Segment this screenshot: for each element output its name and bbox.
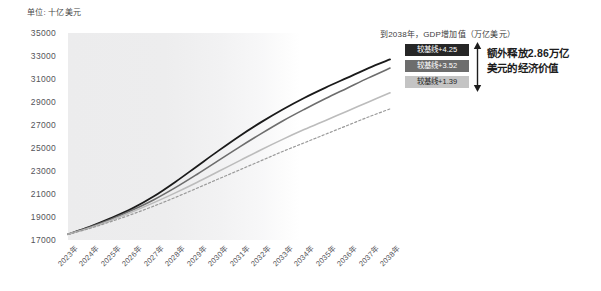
- delta-badge-3: 较基线+1.39: [405, 76, 469, 88]
- callout-line-1: 额外释放2.86万亿: [487, 46, 599, 61]
- y-axis-tick: 33000: [31, 51, 56, 61]
- x-axis-tick: 2027年: [140, 243, 165, 268]
- y-axis-tick: 27000: [31, 120, 56, 130]
- x-axis-tick: 2036年: [334, 243, 359, 268]
- x-axis-tick: 2037年: [355, 243, 380, 268]
- y-axis-tick: 19000: [31, 212, 56, 222]
- y-axis-tick: 29000: [31, 97, 56, 107]
- double-headed-vertical-arrow-icon: [473, 42, 482, 92]
- x-axis-tick: 2029年: [183, 243, 208, 268]
- chart-plot-area: [68, 33, 390, 240]
- annotation-title: 到2038年，GDP增加值（万亿美元）: [380, 28, 515, 39]
- delta-badge-2: 较基线+3.52: [405, 60, 469, 72]
- x-axis-tick: 2033年: [269, 243, 294, 268]
- x-axis-tick: 2031年: [226, 243, 251, 268]
- chart-lines: [68, 33, 390, 240]
- x-axis: 2023年2024年2025年2026年2027年2028年2029年2030年…: [68, 243, 398, 285]
- callout-line-2: 美元的经济价值: [487, 61, 599, 76]
- annotation-block: 到2038年，GDP增加值（万亿美元） 较基线+4.25 较基线+3.52 较基…: [380, 28, 601, 108]
- y-axis-tick: 25000: [31, 143, 56, 153]
- x-axis-tick: 2025年: [97, 243, 122, 268]
- y-axis-tick: 35000: [31, 28, 56, 38]
- unit-label: 单位: 十亿美元: [27, 6, 81, 17]
- chart-line-2: [68, 68, 390, 234]
- callout-text: 额外释放2.86万亿 美元的经济价值: [487, 46, 599, 76]
- chart-line-3: [68, 93, 390, 234]
- chart-line-1: [68, 59, 390, 234]
- y-axis-tick: 23000: [31, 166, 56, 176]
- x-axis-tick: 2032年: [248, 243, 273, 268]
- y-axis-tick: 31000: [31, 74, 56, 84]
- delta-badge-1: 较基线+4.25: [405, 44, 469, 56]
- y-axis: 3500033000310002900027000250002300021000…: [0, 33, 62, 240]
- x-axis-tick: 2028年: [162, 243, 187, 268]
- x-axis-tick: 2034年: [291, 243, 316, 268]
- y-axis-tick: 17000: [31, 235, 56, 245]
- x-axis-tick: 2024年: [76, 243, 101, 268]
- x-axis-tick: 2023年: [55, 243, 80, 268]
- x-axis-tick: 2035年: [312, 243, 337, 268]
- y-axis-tick: 21000: [31, 189, 56, 199]
- x-axis-tick: 2030年: [205, 243, 230, 268]
- x-axis-tick: 2038年: [377, 243, 402, 268]
- x-axis-tick: 2026年: [119, 243, 144, 268]
